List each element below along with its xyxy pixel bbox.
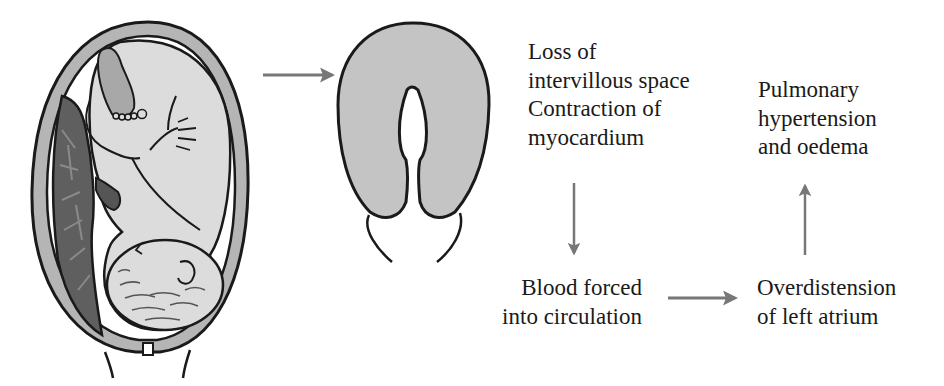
outcome-line-3: and oedema bbox=[758, 133, 877, 162]
cause-line-4: myocardium bbox=[528, 124, 690, 153]
atrium-line-2: of left atrium bbox=[757, 303, 896, 332]
contracted-uterus-illustration bbox=[338, 23, 489, 262]
node-blood: Blood forced into circulation bbox=[472, 274, 642, 331]
outcome-line-2: hypertension bbox=[758, 105, 877, 134]
uterus-with-fetus-illustration bbox=[32, 22, 248, 378]
blood-line-2: into circulation bbox=[472, 303, 642, 332]
blood-line-1: Blood forced bbox=[472, 274, 642, 303]
cause-line-3: Contraction of bbox=[528, 95, 690, 124]
outcome-line-1: Pulmonary bbox=[758, 76, 877, 105]
node-atrium: Overdistension of left atrium bbox=[757, 274, 896, 331]
atrium-line-1: Overdistension bbox=[757, 274, 896, 303]
node-cause: Loss of intervillous space Contraction o… bbox=[528, 38, 690, 152]
node-outcome: Pulmonary hypertension and oedema bbox=[758, 76, 877, 162]
cause-line-1: Loss of bbox=[528, 38, 690, 67]
cause-line-2: intervillous space bbox=[528, 67, 690, 96]
